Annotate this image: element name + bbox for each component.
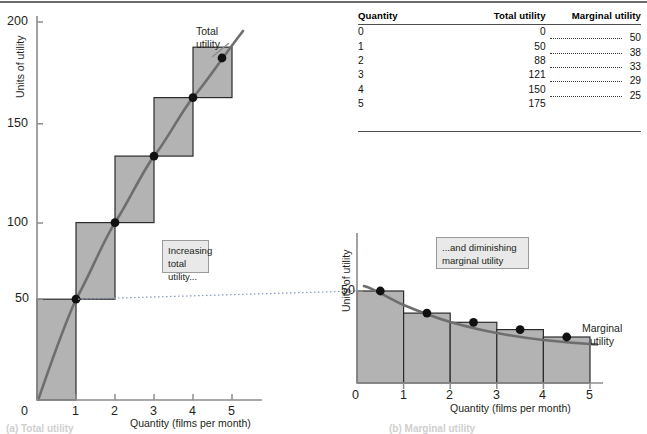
table-row: 2 88 33 bbox=[358, 54, 641, 68]
utility-table-head: Quantity Total utility Marginal utility bbox=[358, 10, 641, 25]
cell-quantity: 1 bbox=[358, 39, 454, 53]
panel-b-bars bbox=[357, 291, 590, 383]
marginal-utility-label-line1: Marginal bbox=[582, 322, 622, 334]
panel-a-x-ticks bbox=[76, 394, 232, 400]
mu-point-1 bbox=[376, 287, 385, 296]
cell-total: 0 bbox=[454, 25, 547, 40]
cell-marginal: 29 bbox=[548, 68, 641, 82]
panel-a-xtick-1: 1 bbox=[72, 404, 79, 419]
data-point-q5 bbox=[218, 54, 227, 63]
cell-quantity: 0 bbox=[358, 25, 454, 40]
utility-table: Quantity Total utility Marginal utility … bbox=[358, 10, 641, 110]
panel-a-step-bars bbox=[37, 47, 232, 400]
cell-marginal: 25 bbox=[548, 83, 641, 97]
mu-bar-2 bbox=[404, 313, 451, 383]
panel-a-chart bbox=[37, 16, 262, 400]
cell-marginal: 50 bbox=[548, 25, 641, 40]
callout-diminishing-marginal-utility: ...and diminishing marginal utility bbox=[436, 237, 529, 269]
caption-panel-a: (a) Total utility bbox=[6, 423, 74, 434]
utility-table-body: 0 0 50 1 50 38 bbox=[358, 25, 641, 111]
table-bottom-rule bbox=[358, 131, 641, 132]
table-row: 5 175 bbox=[358, 97, 641, 110]
cell-marginal: 33 bbox=[548, 54, 641, 68]
panel-a-ytick-200: 200 bbox=[7, 14, 28, 29]
panel-a-y-axis-title: Units of utility bbox=[14, 36, 26, 98]
cell-total: 150 bbox=[454, 83, 547, 97]
panel-b-xtick-4: 4 bbox=[539, 388, 546, 403]
panel-a-ytick-100: 100 bbox=[7, 215, 28, 230]
col-header-quantity: Quantity bbox=[358, 10, 454, 25]
callout-a-line2: total utility... bbox=[168, 258, 203, 284]
panel-a-xtick-2: 2 bbox=[111, 404, 118, 419]
cell-quantity: 5 bbox=[358, 97, 454, 110]
cell-quantity: 3 bbox=[358, 68, 454, 82]
table-row: 4 150 25 bbox=[358, 83, 641, 97]
cell-quantity: 4 bbox=[358, 83, 454, 97]
utility-table-element: Quantity Total utility Marginal utility … bbox=[358, 10, 641, 110]
marginal-cell-wrap: 25 bbox=[548, 84, 641, 96]
panel-b-xtick-3: 3 bbox=[493, 388, 500, 403]
mu-point-2 bbox=[423, 309, 432, 318]
table-row: 3 121 29 bbox=[358, 68, 641, 82]
marginal-cell-wrap: 33 bbox=[548, 55, 641, 67]
mu-bar-1 bbox=[357, 291, 404, 383]
table-row: 0 0 50 bbox=[358, 25, 641, 40]
panel-b-xtick-0: 0 bbox=[352, 388, 359, 403]
col-header-marginal-utility: Marginal utility bbox=[548, 10, 641, 25]
data-point-q2 bbox=[111, 218, 120, 227]
panel-a-ytick-150: 150 bbox=[7, 116, 28, 131]
mu-point-4 bbox=[516, 325, 525, 334]
cell-total: 175 bbox=[454, 97, 547, 110]
panel-b-x-axis-title: Quantity (films per month) bbox=[450, 402, 571, 414]
mu-point-3 bbox=[469, 318, 478, 327]
cell-total: 50 bbox=[454, 39, 547, 53]
col-header-total-utility: Total utility bbox=[454, 10, 547, 25]
panel-a-ytick-50: 50 bbox=[15, 291, 29, 306]
utility-50-connector bbox=[78, 291, 357, 299]
marginal-cell-wrap: 50 bbox=[548, 26, 641, 38]
table-header-row: Quantity Total utility Marginal utility bbox=[358, 10, 641, 25]
callout-a-line1: Increasing bbox=[168, 245, 203, 258]
marginal-utility-label-line2: utility bbox=[590, 335, 614, 347]
cell-total: 88 bbox=[454, 54, 547, 68]
panel-b-xtick-2: 2 bbox=[446, 388, 453, 403]
panel-b-ytick-50: 50 bbox=[341, 283, 355, 298]
panel-a-y-ticks bbox=[37, 22, 43, 299]
caption-panel-b: (b) Marginal utility bbox=[389, 423, 475, 434]
cell-quantity: 2 bbox=[358, 54, 454, 68]
panel-a-x-axis-title: Quantity (films per month) bbox=[130, 417, 251, 429]
total-utility-label-line2: utility bbox=[196, 38, 220, 50]
panel-b-y-axis-title: Units of utility bbox=[340, 250, 352, 312]
mu-point-5 bbox=[562, 333, 571, 342]
callout-increasing-total-utility: Increasing total utility... bbox=[162, 240, 209, 273]
data-point-q4 bbox=[189, 93, 198, 102]
marginal-cell-wrap: 38 bbox=[548, 41, 641, 53]
marginal-cell-wrap: 29 bbox=[548, 69, 641, 81]
panel-a-ytick-0: 0 bbox=[21, 404, 28, 419]
callout-b-line2: marginal utility bbox=[442, 255, 523, 268]
callout-b-line1: ...and diminishing bbox=[442, 242, 523, 255]
table-row: 1 50 38 bbox=[358, 39, 641, 53]
panel-b-xtick-1: 1 bbox=[400, 388, 407, 403]
panel-b-xtick-5: 5 bbox=[586, 388, 593, 403]
cell-marginal bbox=[548, 97, 641, 110]
total-utility-label-line1: Total bbox=[196, 25, 218, 37]
cell-total: 121 bbox=[454, 68, 547, 82]
cell-marginal: 38 bbox=[548, 39, 641, 53]
data-point-q3 bbox=[150, 152, 159, 161]
